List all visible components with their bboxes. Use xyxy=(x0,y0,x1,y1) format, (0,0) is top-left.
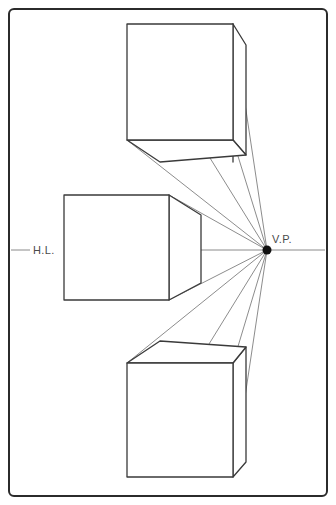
horizon-line-label: H.L. xyxy=(33,244,55,256)
upper-box-bottom-face xyxy=(127,140,246,162)
middle-box-side-face xyxy=(169,195,201,300)
lower-box-front-face xyxy=(127,363,233,477)
upper-box-front-face xyxy=(127,24,233,140)
perspective-canvas: H.L. V.P. xyxy=(0,0,336,505)
middle-box-front-face xyxy=(64,195,169,300)
middle-box xyxy=(64,195,201,300)
upper-box-side-face xyxy=(233,24,246,155)
vanishing-point-dot xyxy=(263,246,272,255)
vanishing-point-label: V.P. xyxy=(272,233,292,245)
upper-box xyxy=(127,24,246,162)
lower-box xyxy=(127,341,246,477)
perspective-diagram: H.L. V.P. xyxy=(0,0,336,505)
lower-box-side-face xyxy=(233,347,246,477)
lower-box-top-face xyxy=(127,341,246,363)
